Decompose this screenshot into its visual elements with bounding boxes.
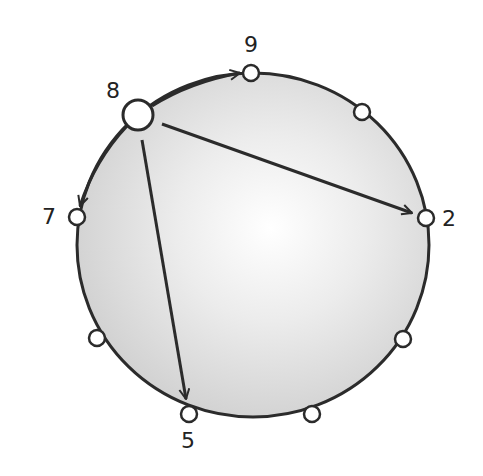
node-top-right [354, 104, 370, 120]
label-7: 7 [42, 204, 56, 229]
cycle-diagram: 8 9 2 5 7 [0, 0, 483, 476]
node-8 [123, 100, 153, 130]
node-7 [69, 209, 85, 225]
label-9: 9 [244, 32, 258, 57]
node-lower-left [89, 330, 105, 346]
node-9 [243, 65, 259, 81]
node-lower-right [395, 331, 411, 347]
label-2: 2 [442, 206, 456, 231]
node-2 [418, 210, 434, 226]
label-8: 8 [106, 78, 120, 103]
node-5 [181, 406, 197, 422]
node-bottom-right [304, 406, 320, 422]
label-5: 5 [181, 428, 195, 453]
